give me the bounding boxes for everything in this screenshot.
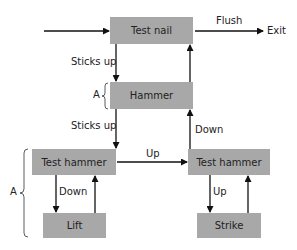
edge-label-down-right: Down <box>195 124 223 135</box>
node-label: Test hammer <box>41 157 106 168</box>
edge-label-up-horizontal: Up <box>146 148 160 159</box>
flow-diagram: Test nail Hammer Test hammer Lift Test h… <box>0 0 297 250</box>
node-label: Lift <box>67 220 83 231</box>
node-lift: Lift <box>43 213 106 238</box>
node-label: Test nail <box>131 25 172 36</box>
edge-label-sticks-up-1: Sticks up <box>71 56 116 67</box>
node-hammer: Hammer <box>110 82 193 109</box>
edge-label-down-left: Down <box>59 186 87 197</box>
node-label: Hammer <box>130 90 173 101</box>
bracket-label-a-large: A <box>10 186 17 197</box>
node-test-hammer-left: Test hammer <box>32 149 116 175</box>
node-label: Strike <box>215 220 244 231</box>
edge-label-up-right: Up <box>213 186 227 197</box>
edge-label-sticks-up-2: Sticks up <box>71 120 116 131</box>
node-strike: Strike <box>197 213 261 238</box>
node-test-nail: Test nail <box>110 17 193 44</box>
node-label: Test hammer <box>196 157 261 168</box>
edge-label-flush: Flush <box>216 15 242 26</box>
edge-label-exit: Exit <box>267 25 286 36</box>
node-test-hammer-right: Test hammer <box>188 149 270 175</box>
bracket-label-a-small: A <box>93 89 100 100</box>
